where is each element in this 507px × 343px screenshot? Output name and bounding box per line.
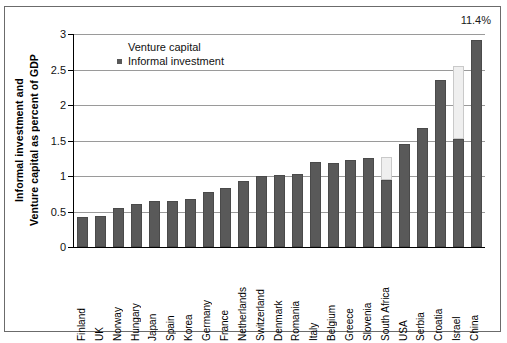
y-axis-tick-label: 1.5 [51,135,66,147]
bar-segment[interactable] [256,176,267,247]
bar-segment[interactable] [381,180,392,247]
bar-segment[interactable] [453,66,464,139]
chart-frame: 11.4% Informal investment and Venture ca… [4,6,501,332]
x-axis-label: China [469,251,482,341]
y-axis-tick-label: 1 [60,170,66,182]
bar-segment[interactable] [220,188,231,247]
x-axis-label: France [219,251,232,341]
bar-segment[interactable] [113,208,124,247]
y-axis-title: Informal investment and Venture capital … [11,25,45,255]
bar-segment[interactable] [363,158,374,247]
bar-segment[interactable] [310,162,321,247]
chart-legend: Venture capitalInformal investment [115,40,224,68]
bar-segment[interactable] [274,175,285,247]
legend-item: Venture capital [115,40,224,54]
legend-label: Informal investment [128,55,224,67]
bar-segment[interactable] [381,157,392,180]
bar-segment[interactable] [167,201,178,247]
y-axis-tick-label: 0.5 [51,206,66,218]
legend-square-icon [115,57,124,66]
legend-item: Informal investment [115,54,224,68]
x-axis-label: Finland [76,251,89,341]
bar-segment[interactable] [95,216,106,247]
x-axis-label: Serbia [415,251,428,341]
y-axis-title-line2: Venture capital as percent of GDP [26,25,41,255]
bar-segment[interactable] [203,192,214,247]
x-axis-label: Germany [201,251,214,341]
bar-segment[interactable] [185,199,196,247]
legend-label: Venture capital [128,41,201,53]
bar-segment[interactable] [435,80,446,247]
x-axis-label: Belgium [326,251,339,341]
x-axis-label: Greece [344,251,357,341]
x-axis-label: Spain [165,251,178,341]
y-axis-tick-label: 0 [60,241,66,253]
bar-segment[interactable] [471,40,482,247]
x-axis-label: Switzerland [255,251,268,341]
x-axis-label: Hungary [130,251,143,341]
x-axis-label: UK [94,251,107,341]
x-axis-label: USA [398,251,411,341]
x-axis-label: Slovenia [362,251,375,341]
bar-segment[interactable] [399,144,410,247]
y-axis-tick-label: 2 [60,99,66,111]
x-axis-label: Korea [183,251,196,341]
bar-segment[interactable] [131,204,142,247]
bar-segment[interactable] [417,128,428,247]
x-axis-label: Norway [112,251,125,341]
china-value-annotation: 11.4% [461,14,491,26]
bar-segment[interactable] [345,160,356,247]
y-axis-tick-label: 2.5 [51,64,66,76]
y-axis-title-line1: Informal investment and [11,25,26,255]
bar-segment[interactable] [453,139,464,247]
x-axis-labels: FinlandUKNorwayHungaryJapanSpainKoreaGer… [73,251,484,343]
x-axis-label: Denmark [273,251,286,341]
x-axis-label: Romania [290,251,303,341]
bar-segment[interactable] [292,174,303,247]
bar-segment[interactable] [77,217,88,247]
x-axis-label: Croatia [433,251,446,341]
x-axis-label: South Africa [380,251,393,341]
y-axis-tick-label: 3 [60,28,66,40]
y-axis-tick [68,247,74,248]
x-axis-label: Israel [451,251,464,341]
legend-blank-icon [115,43,124,52]
x-axis-label: Italy [308,251,321,341]
bar-segment[interactable] [238,181,249,247]
bar-segment[interactable] [328,163,339,247]
bar-segment[interactable] [149,201,160,247]
x-axis-label: Japan [147,251,160,341]
x-axis-label: Netherlands [237,251,250,341]
